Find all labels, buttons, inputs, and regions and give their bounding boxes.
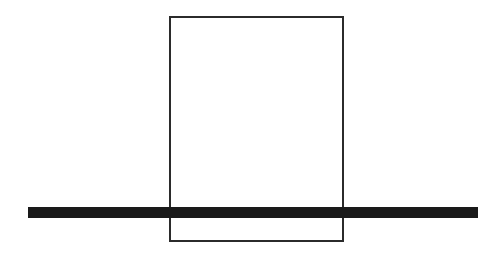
horizontal-bar-shape bbox=[28, 207, 478, 218]
canvas-background bbox=[0, 0, 502, 262]
figure-svg bbox=[0, 0, 502, 262]
drawing-canvas bbox=[0, 0, 502, 262]
